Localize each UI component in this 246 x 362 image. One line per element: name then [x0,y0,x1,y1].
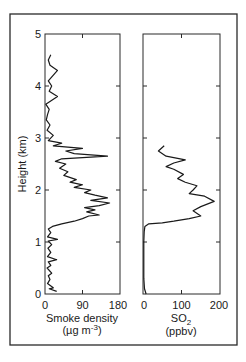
right-plot-area [143,34,220,294]
left-x-tick-labels: 0 90 180 [42,299,127,311]
right-x-tick-labels: 0 100 200 [141,299,228,311]
left-plot-area [45,34,120,294]
ytick-3: 3 [35,132,41,144]
right-x-axis-units: (ppbv) [165,325,196,337]
right-ticks [143,34,220,294]
chart-figure: 0 1 2 3 4 5 Height (km) 0 90 180 Smoke d… [0,0,246,362]
left-xtick-0: 0 [42,299,48,311]
left-xtick-180: 180 [109,299,127,311]
left-x-axis-label: Smoke density [46,312,119,324]
right-xtick-200: 200 [210,299,228,311]
ytick-1: 1 [35,236,41,248]
left-x-axis-units: (µg m-3) [62,323,101,336]
ytick-0: 0 [35,288,41,300]
outer-frame [10,14,237,345]
ytick-4: 4 [35,80,41,92]
so2-line [144,146,214,294]
left-xtick-90: 90 [76,299,88,311]
ytick-5: 5 [35,28,41,40]
right-xtick-100: 100 [172,299,190,311]
right-xtick-0: 0 [141,299,147,311]
smoke-density-line [46,55,110,292]
y-axis-label: Height (km) [16,136,28,193]
left-yticks [45,34,120,294]
y-tick-labels: 0 1 2 3 4 5 [35,28,41,300]
ytick-2: 2 [35,184,41,196]
